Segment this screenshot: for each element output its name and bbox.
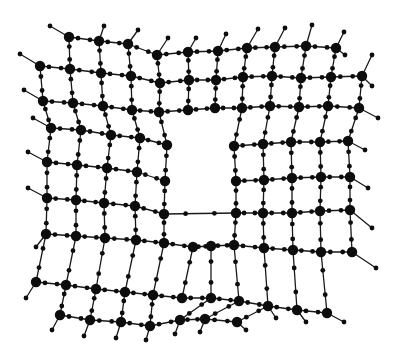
bond	[165, 145, 167, 181]
hub-node	[292, 305, 302, 315]
linker-node	[280, 140, 285, 145]
linker-node	[293, 290, 298, 295]
terminal-node	[136, 28, 141, 33]
bond	[321, 252, 327, 313]
linker-node	[242, 178, 247, 183]
linker-node	[292, 266, 297, 271]
linker-node	[269, 141, 274, 146]
terminal-node	[343, 53, 348, 58]
bond	[234, 146, 236, 181]
linker-node	[162, 220, 167, 225]
hub-node	[265, 101, 275, 111]
linker-node	[274, 305, 279, 310]
linker-node	[117, 134, 122, 139]
bond	[350, 210, 352, 252]
hub-node	[159, 238, 169, 248]
linker-node	[289, 150, 294, 155]
terminal-node	[342, 320, 347, 325]
linker-node	[222, 77, 227, 82]
terminal-node	[274, 316, 279, 321]
terminal-node	[283, 26, 288, 31]
linker-node	[96, 165, 101, 170]
linker-node	[290, 75, 295, 80]
linker-node	[243, 54, 248, 59]
linker-node	[206, 78, 211, 83]
linker-node	[169, 319, 174, 324]
linker-node	[100, 94, 105, 99]
linker-node	[278, 74, 283, 79]
hub-node	[242, 43, 252, 53]
linker-node	[102, 288, 107, 293]
linker-node	[326, 139, 331, 144]
linker-node	[320, 129, 325, 134]
linker-node	[335, 104, 340, 109]
linker-node	[183, 280, 188, 285]
linker-node	[288, 104, 293, 109]
linker-node	[141, 206, 146, 211]
linker-node	[165, 109, 170, 114]
linker-node	[240, 96, 245, 101]
linker-node	[183, 211, 188, 216]
linker-node	[89, 69, 94, 74]
linker-node	[281, 176, 286, 181]
bond	[320, 142, 321, 177]
linker-node	[112, 236, 117, 241]
linker-node	[186, 69, 191, 74]
hub-node	[177, 293, 187, 303]
hub-node	[237, 103, 247, 113]
hub-node	[210, 103, 220, 113]
terminal-node	[48, 24, 53, 29]
linker-node	[233, 259, 238, 264]
linker-node	[213, 311, 218, 316]
linker-node	[252, 142, 257, 147]
linker-node	[84, 164, 89, 169]
linker-node	[162, 133, 167, 138]
linker-node	[240, 143, 245, 148]
bond	[320, 211, 321, 252]
terminal-node	[374, 266, 379, 271]
linker-node	[195, 49, 200, 54]
bond	[164, 213, 236, 214]
hub-node	[46, 123, 56, 133]
bond	[263, 144, 264, 180]
linker-node	[348, 220, 353, 225]
linker-node	[269, 83, 274, 88]
linker-node	[269, 211, 274, 216]
linker-node	[347, 105, 352, 110]
linker-node	[150, 302, 155, 307]
hub-node	[229, 240, 239, 250]
linker-node	[212, 211, 217, 216]
hub-node	[76, 125, 86, 135]
linker-node	[143, 172, 148, 177]
linker-node	[66, 162, 71, 167]
bond	[182, 247, 193, 298]
linker-node	[318, 150, 323, 155]
hub-node	[130, 201, 140, 211]
linker-node	[111, 202, 116, 207]
linker-node	[85, 285, 90, 290]
linker-node	[109, 319, 114, 324]
terminal-node	[370, 226, 375, 231]
terminal-node	[102, 24, 107, 29]
hub-node	[259, 175, 269, 185]
hub-node	[206, 293, 216, 303]
linker-node	[162, 202, 167, 207]
linker-node	[194, 107, 199, 112]
linker-node	[182, 243, 187, 248]
linker-node	[120, 73, 125, 78]
linker-node	[290, 222, 295, 227]
linker-node	[282, 247, 287, 252]
linker-node	[294, 44, 299, 49]
linker-node	[289, 165, 294, 170]
bond	[234, 245, 239, 301]
linker-node	[44, 206, 49, 211]
linker-node	[88, 37, 93, 42]
linker-node	[225, 243, 230, 248]
linker-node	[158, 256, 163, 261]
linker-node	[248, 105, 253, 110]
bond	[104, 168, 107, 203]
linker-node	[232, 154, 237, 159]
hub-node	[65, 64, 75, 74]
linker-node	[137, 146, 142, 151]
linker-node	[327, 95, 332, 100]
